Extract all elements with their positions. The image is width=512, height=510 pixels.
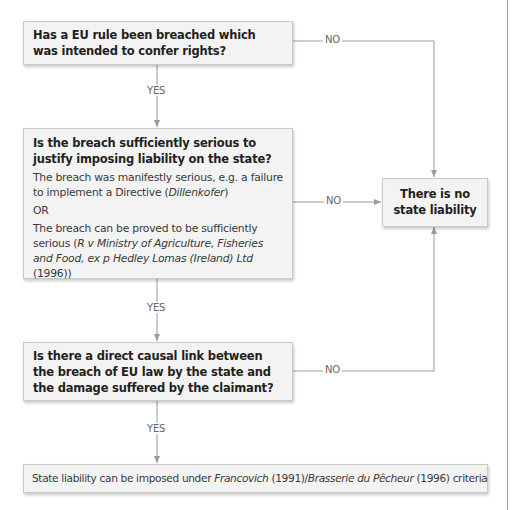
no-label-3: NO [323, 364, 342, 375]
question-title: Is the breach sufficiently serious to ju… [33, 135, 283, 167]
case-name-brasserie: Brasserie du Pêcheur [308, 472, 414, 484]
yes-label-1: YES [145, 85, 167, 96]
option-text: The breach was manifestly serious, e.g. … [33, 171, 283, 199]
outcome-box-no-liability: There is no state liability [382, 178, 488, 227]
outcome-text: State liability can be imposed under Fra… [32, 471, 479, 486]
option-manifestly-serious: The breach was manifestly serious, e.g. … [33, 170, 283, 200]
no-label-2: NO [324, 195, 343, 206]
option-proved-serious: The breach can be proved to be sufficien… [33, 221, 283, 281]
case-name: Dillenkofer [169, 186, 225, 199]
option-end: ) [224, 186, 228, 199]
no-label-1: NO [323, 34, 342, 45]
question-box-sufficiently-serious: Is the breach sufficiently serious to ju… [23, 128, 293, 279]
outcome-mid: (1991)/ [268, 472, 307, 484]
case-name-francovich: Francovich [214, 472, 268, 484]
question-box-rule-breached: Has a EU rule been breached which was in… [23, 21, 293, 65]
option-end: (1996)) [33, 267, 71, 280]
outcome-text: There is no state liability [387, 186, 483, 218]
outcome-suffix: (1996) criteria [413, 472, 487, 484]
or-separator: OR [33, 203, 283, 218]
question-box-causal-link: Is there a direct causal link between th… [23, 342, 293, 401]
outcome-prefix: State liability can be imposed under [32, 472, 214, 484]
question-text: Is there a direct causal link between th… [33, 348, 283, 396]
question-text: Has a EU rule been breached which was in… [33, 27, 283, 59]
yes-label-3: YES [145, 423, 167, 434]
yes-label-2: YES [145, 302, 167, 313]
outcome-box-liability-imposed: State liability can be imposed under Fra… [23, 464, 488, 493]
